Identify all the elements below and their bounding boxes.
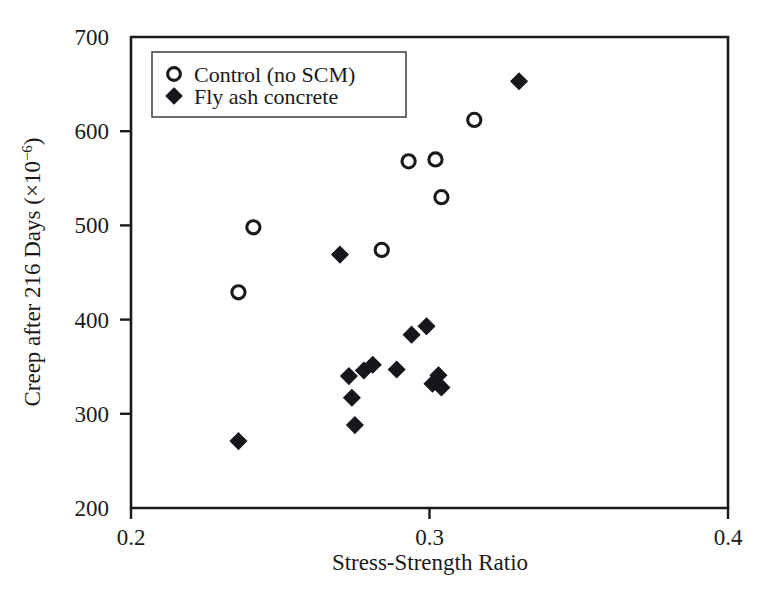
y-tick-label: 400	[75, 308, 110, 333]
x-tick-label: 0.3	[415, 525, 444, 550]
x-axis-tick-labels: 0.20.30.4	[117, 525, 743, 550]
data-point-open-circle	[247, 221, 260, 234]
data-point-open-circle	[232, 286, 245, 299]
y-tick-label: 600	[75, 119, 110, 144]
x-tick-label: 0.2	[117, 525, 146, 550]
legend: Control (no SCM) Fly ash concrete	[152, 52, 406, 117]
series-control-no-scm	[232, 113, 481, 299]
data-point-filled-diamond	[341, 368, 357, 384]
y-axis-title: Creep after 216 Days (×10−6)	[19, 137, 45, 406]
data-point-open-circle	[375, 243, 388, 256]
y-tick-label: 500	[75, 213, 110, 238]
y-tick-label: 300	[75, 402, 110, 427]
y-axis-tick-labels: 200300400500600700	[75, 25, 110, 521]
x-tick-label: 0.4	[714, 525, 743, 550]
data-point-filled-diamond	[403, 326, 419, 342]
open-circle-icon	[168, 68, 181, 81]
data-point-filled-diamond	[388, 361, 404, 377]
data-point-open-circle	[429, 153, 442, 166]
data-point-filled-diamond	[332, 246, 348, 262]
data-point-filled-diamond	[230, 433, 246, 449]
legend-label-flyash: Fly ash concrete	[194, 84, 338, 109]
x-axis-title: Stress-Strength Ratio	[332, 550, 528, 575]
data-point-open-circle	[402, 155, 415, 168]
data-point-filled-diamond	[344, 390, 360, 406]
data-point-filled-diamond	[511, 73, 527, 89]
plot-canvas: 0.20.30.4 200300400500600700 Stress-Stre…	[0, 0, 774, 606]
scatter-chart-figure: 0.20.30.4 200300400500600700 Stress-Stre…	[0, 0, 774, 606]
y-tick-label: 200	[75, 496, 110, 521]
data-point-filled-diamond	[418, 318, 434, 334]
x-axis-ticks	[131, 508, 728, 519]
series-fly-ash-concrete	[230, 73, 527, 449]
data-point-open-circle	[435, 191, 448, 204]
data-point-open-circle	[468, 113, 481, 126]
data-point-filled-diamond	[347, 417, 363, 433]
y-tick-label: 700	[75, 25, 110, 50]
y-axis-ticks	[120, 131, 131, 414]
